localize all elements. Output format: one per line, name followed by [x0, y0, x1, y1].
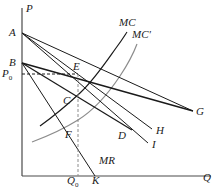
line-a-to-i	[22, 33, 148, 143]
mc-prime-curve-label: MC'	[132, 29, 151, 40]
point-k-label: K	[92, 175, 99, 186]
mr-line-label: MR	[99, 155, 115, 166]
mc-prime-curve	[32, 44, 137, 142]
point-a-label: A	[9, 27, 16, 38]
point-f-label: F	[65, 129, 72, 140]
point-d-label: D	[118, 130, 126, 141]
p-axis-label: P	[26, 3, 33, 14]
quantity-q0-label: Q0	[67, 175, 78, 189]
price-p0-letter: P	[2, 67, 9, 79]
q-axis-label: Q	[203, 172, 211, 183]
line-a-to-g	[22, 33, 193, 111]
point-g-label: G	[196, 106, 204, 117]
quantity-q0-letter: Q	[67, 174, 75, 186]
line-b-to-g	[22, 63, 193, 111]
point-h-label: H	[156, 125, 164, 136]
axes-group	[22, 8, 211, 176]
economics-diagram: P Q A B P0 E C F D G H I K MC MC' MR Q0	[0, 0, 223, 194]
price-p0-label: P0	[2, 68, 12, 82]
mc-curve-label: MC	[119, 17, 136, 28]
point-i-label: I	[152, 139, 156, 150]
point-e-label: E	[73, 61, 80, 72]
point-c-label: C	[63, 95, 70, 106]
price-p0-subscript: 0	[9, 74, 13, 82]
quantity-q0-subscript: 0	[75, 181, 79, 189]
point-b-label: B	[9, 57, 16, 68]
